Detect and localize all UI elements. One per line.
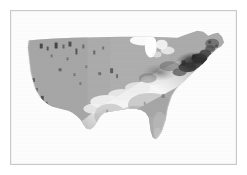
map-canvas: Grayscale density map of the contiguous …	[11, 11, 236, 164]
map-frame: Grayscale density map of the contiguous …	[10, 10, 237, 165]
new-england-cluster	[205, 39, 219, 49]
figure-description: Map of the lower 48 United States render…	[0, 0, 1, 1]
us-density-map-image: Grayscale density map of the contiguous …	[11, 11, 236, 164]
figure-root: Grayscale density map of the contiguous …	[0, 0, 247, 175]
